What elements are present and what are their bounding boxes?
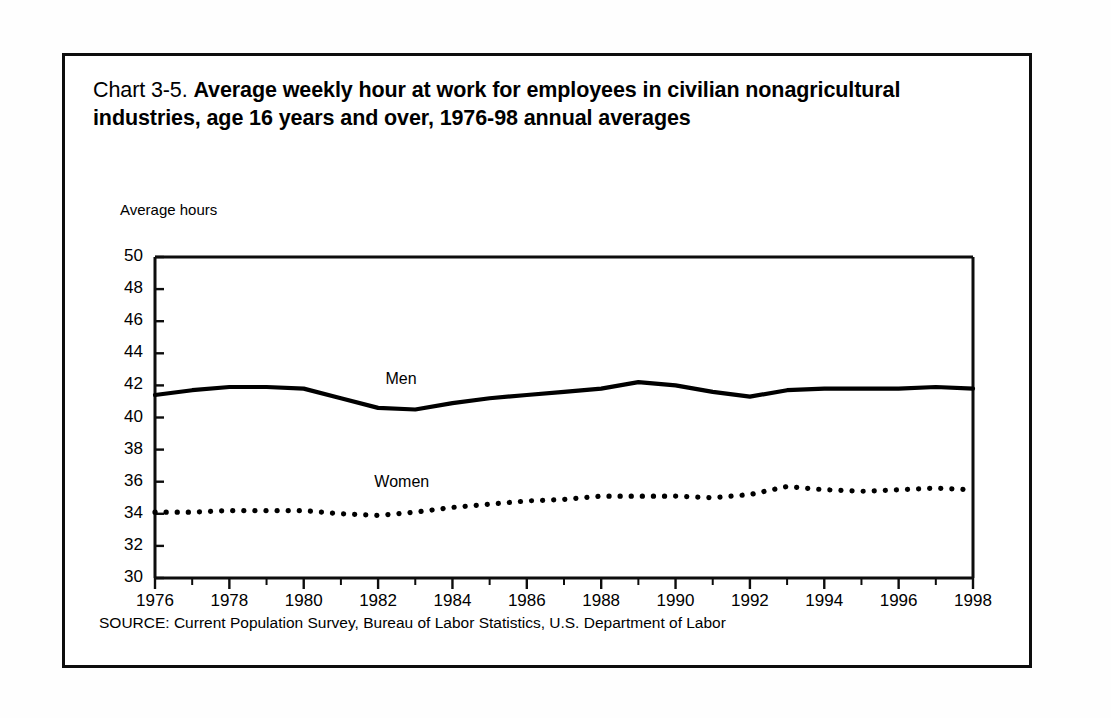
y-axis-tick-label: 38 — [109, 439, 143, 459]
y-axis-tick-label: 30 — [109, 567, 143, 587]
y-axis-tick-label: 46 — [109, 310, 143, 330]
x-axis-tick-label: 1986 — [492, 591, 562, 611]
x-axis-tick-label: 1978 — [194, 591, 264, 611]
x-axis-tick-label: 1998 — [938, 591, 1008, 611]
plot-svg — [65, 56, 1035, 671]
x-axis-tick-label: 1976 — [120, 591, 190, 611]
x-axis-tick-label: 1994 — [789, 591, 859, 611]
y-axis-tick-label: 36 — [109, 471, 143, 491]
plot-area: 5048464442403836343230197619781980198219… — [65, 56, 1035, 671]
y-axis-tick-label: 44 — [109, 342, 143, 362]
series-label-women: Women — [374, 473, 429, 491]
chart-frame: Chart 3-5. Average weekly hour at work f… — [62, 53, 1032, 668]
x-axis-tick-label: 1982 — [343, 591, 413, 611]
axis-lines — [155, 257, 973, 578]
series-line-women — [155, 487, 973, 516]
x-axis-tick-label: 1992 — [715, 591, 785, 611]
y-axis-tick-label: 50 — [109, 246, 143, 266]
x-axis-tick-label: 1996 — [864, 591, 934, 611]
y-axis-tick-label: 34 — [109, 503, 143, 523]
x-tick-marks — [155, 578, 973, 589]
x-axis-tick-label: 1988 — [566, 591, 636, 611]
x-axis-tick-label: 1984 — [417, 591, 487, 611]
y-axis-tick-label: 32 — [109, 535, 143, 555]
series-label-men: Men — [386, 370, 417, 388]
y-axis-tick-label: 48 — [109, 278, 143, 298]
y-axis-tick-label: 40 — [109, 407, 143, 427]
x-axis-tick-label: 1990 — [641, 591, 711, 611]
page-canvas: Chart 3-5. Average weekly hour at work f… — [0, 0, 1111, 718]
series-line-men — [155, 382, 973, 409]
x-axis-tick-label: 1980 — [269, 591, 339, 611]
source-note: SOURCE: Current Population Survey, Burea… — [99, 614, 726, 632]
y-axis-tick-label: 42 — [109, 374, 143, 394]
